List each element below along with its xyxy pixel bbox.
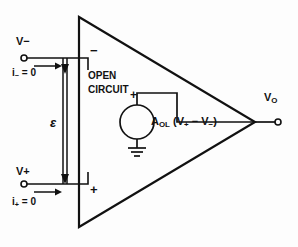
schematic-canvas <box>0 0 298 247</box>
output-voltage-label: VO <box>264 92 278 105</box>
noninverting-current-subscript: + <box>15 200 19 209</box>
differential-voltage-label: ε <box>50 116 56 129</box>
epsilon-arrowhead-bottom <box>61 174 69 184</box>
epsilon-arrowhead-top <box>61 64 69 74</box>
gain-symbol: A <box>151 115 159 127</box>
expression-close-paren: ) <box>213 115 217 127</box>
inverting-voltage-sign: − <box>23 35 29 47</box>
dependent-source-expression-label: AOL (V+ − V−) <box>151 116 217 129</box>
output-terminal-node <box>275 119 281 125</box>
noninverting-voltage-sign: + <box>23 165 29 177</box>
open-circuit-annotation-line1: OPEN <box>88 71 116 81</box>
open-circuit-annotation-line2: CIRCUIT <box>88 85 129 95</box>
dependent-voltage-source-symbol <box>120 105 154 139</box>
expression-plus-subscript: + <box>184 120 189 129</box>
inverting-current-arrowhead <box>55 63 62 70</box>
inverting-input-connection <box>66 58 88 70</box>
source-polarity-sign: + <box>130 89 137 101</box>
inverting-input-polarity-sign: − <box>90 44 98 57</box>
noninverting-input-polarity-sign: + <box>90 183 98 196</box>
inverting-current-value: = 0 <box>22 67 36 78</box>
inverting-current-subscript: − <box>15 71 19 80</box>
noninverting-input-terminal-node <box>21 181 27 187</box>
noninverting-current-label: i+ = 0 <box>12 197 36 208</box>
inverting-voltage-label: V− <box>16 36 30 47</box>
output-voltage-subscript: O <box>271 96 277 105</box>
circuit-diagram-figure: V− i− = 0 V+ i+ = 0 OPEN CIRCUIT ε AOL (… <box>0 0 298 247</box>
inverting-input-terminal-node <box>21 55 27 61</box>
inverting-current-label: i− = 0 <box>12 68 36 79</box>
expression-minus-term: − V <box>192 115 209 127</box>
noninverting-input-connection <box>66 172 88 184</box>
noninverting-voltage-label: V+ <box>16 166 30 177</box>
noninverting-current-arrowhead <box>55 189 62 196</box>
noninverting-current-value: = 0 <box>22 196 36 207</box>
gain-subscript: OL <box>159 120 170 129</box>
expression-open-paren: (V <box>173 115 184 127</box>
